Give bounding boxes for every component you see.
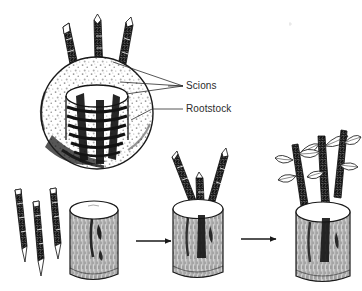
stump-body-1	[70, 210, 118, 280]
stage-bare-stump	[70, 201, 118, 280]
stump-cut-top-1	[70, 201, 118, 219]
scions-label: Scions	[186, 80, 217, 91]
grafting-diagram: Scions Rootstock	[0, 0, 362, 291]
rootstock-label: Rootstock	[186, 103, 232, 114]
